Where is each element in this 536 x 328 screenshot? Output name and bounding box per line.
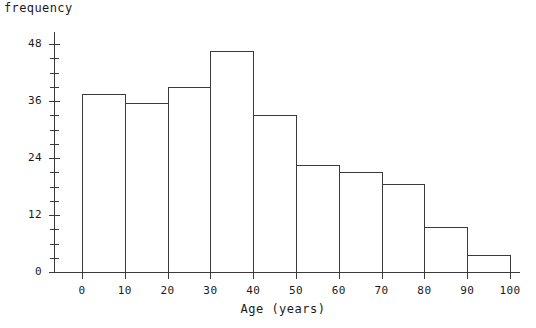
x-axis-tick-label: 10 [118, 284, 132, 297]
histogram-bar [296, 165, 340, 273]
y-axis-tick-minor [50, 144, 59, 145]
y-axis-tick-minor [50, 201, 59, 202]
y-axis-tick-label: 48 [28, 37, 42, 50]
x-axis-tick-label: 50 [289, 284, 303, 297]
x-axis-tick-label: 60 [332, 284, 346, 297]
x-axis-tick-label: 90 [460, 284, 474, 297]
histogram-bar [467, 255, 511, 273]
y-axis-tick-minor [50, 73, 59, 74]
y-axis-tick-major: 24 [49, 158, 60, 159]
histogram-bar [168, 87, 212, 273]
y-axis-title: frequency [4, 1, 73, 15]
y-axis-tick-major: 0 [49, 272, 60, 273]
x-axis-tick-label: 80 [417, 284, 431, 297]
y-axis-tick-label: 24 [28, 151, 42, 164]
histogram-bar [125, 103, 169, 273]
y-axis-tick-minor [50, 87, 59, 88]
y-axis-tick-minor [50, 258, 59, 259]
y-axis-tick-minor [50, 229, 59, 230]
x-axis-tick-label: 30 [203, 284, 217, 297]
y-axis-tick-major: 48 [49, 44, 60, 45]
x-axis-tick-label: 70 [375, 284, 389, 297]
histogram-bar [424, 227, 468, 273]
y-axis-tick-minor [50, 172, 59, 173]
y-axis-tick-minor [50, 58, 59, 59]
histogram-bar [382, 184, 426, 273]
y-axis-tick-label: 12 [28, 208, 42, 221]
y-axis-tick-major: 36 [49, 101, 60, 102]
x-axis-title: Age (years) [54, 302, 512, 316]
histogram-chart: frequency 012243648 01020304050607080901… [0, 0, 536, 328]
y-axis-tick-minor [50, 244, 59, 245]
histogram-bar [82, 94, 126, 273]
plot-area: 012243648 0102030405060708090100 [54, 44, 512, 272]
x-axis-tick-label: 100 [499, 284, 520, 297]
y-axis-tick-label: 0 [35, 265, 42, 278]
histogram-bar [253, 115, 297, 273]
y-axis-tick-minor [50, 187, 59, 188]
y-axis-tick-minor [50, 115, 59, 116]
x-axis-tick-label: 40 [246, 284, 260, 297]
y-axis-line [54, 32, 55, 273]
histogram-bar [210, 51, 254, 273]
x-axis-tick-label: 20 [161, 284, 175, 297]
histogram-bar [339, 172, 383, 273]
x-axis-tick-label: 0 [78, 284, 85, 297]
y-axis-tick-label: 36 [28, 94, 42, 107]
y-axis-tick-minor [50, 130, 59, 131]
y-axis-tick-major: 12 [49, 215, 60, 216]
